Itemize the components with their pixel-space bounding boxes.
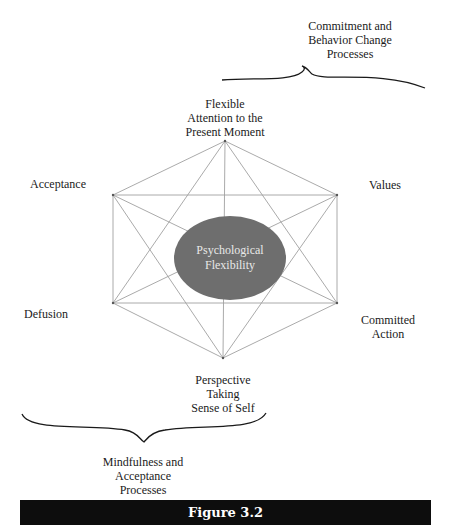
node-self-as-context: Perspective Taking Sense of Self: [163, 373, 283, 415]
commitment-brace: [222, 66, 425, 88]
node-present-moment: Flexible Attention to the Present Moment: [135, 97, 315, 139]
center-label-line2: Flexibility: [205, 258, 255, 272]
figure-caption: Figure 3.2: [188, 505, 263, 520]
node-values: Values: [355, 178, 415, 192]
mindfulness-group-label: Mindfulness and Acceptance Processes: [63, 455, 223, 497]
node-defusion: Defusion: [24, 307, 104, 321]
mindfulness-brace: [22, 413, 266, 442]
hexaflex-diagram: Psychological Flexibility: [0, 0, 451, 531]
figure-caption-bar: Figure 3.2: [20, 500, 431, 525]
commitment-group-label: Commitment and Behavior Change Processes: [260, 19, 440, 61]
node-acceptance: Acceptance: [30, 177, 120, 191]
node-committed-action: Committed Action: [348, 313, 428, 341]
center-label-line1: Psychological: [196, 243, 264, 257]
